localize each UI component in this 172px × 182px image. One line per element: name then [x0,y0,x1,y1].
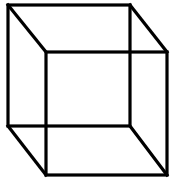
edge-top-right [130,5,167,52]
back-face [8,5,130,126]
edge-bottom-right [130,126,167,175]
front-face [46,52,167,175]
edge-top-left [8,5,46,52]
necker-cube-diagram [0,0,172,182]
edge-bottom-left [8,126,46,175]
